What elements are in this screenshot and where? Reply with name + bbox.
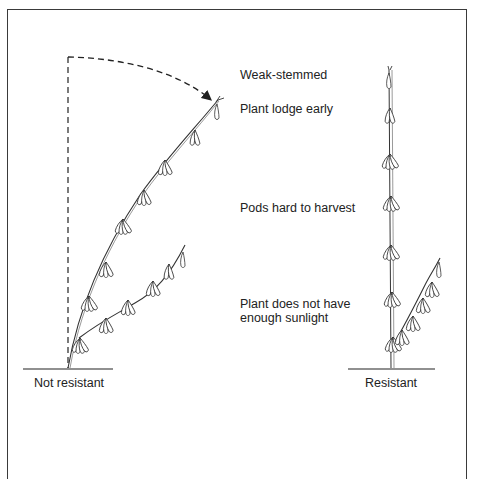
- annotation-sunlight-line2: enough sunlight: [240, 311, 328, 325]
- annotation-lodge-early: Plant lodge early: [240, 102, 333, 116]
- not-resistant-plant: [23, 96, 224, 369]
- resistant-plant: [348, 66, 441, 369]
- annotation-sunlight-line1: Plant does not have: [240, 297, 351, 311]
- annotation-weak-stemmed: Weak-stemmed: [240, 68, 327, 82]
- caption-resistant: Resistant: [365, 376, 417, 390]
- annotation-pods-hard: Pods hard to harvest: [240, 201, 355, 215]
- original-position-indicator: [68, 57, 210, 368]
- caption-not-resistant: Not resistant: [34, 376, 104, 390]
